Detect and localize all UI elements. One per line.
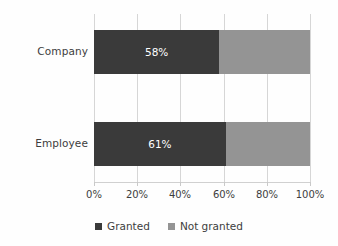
plot-area: 58% 61% — [94, 14, 310, 182]
bar-segment-employee-not-granted[interactable] — [226, 122, 310, 166]
x-tick-mark-0 — [94, 182, 95, 186]
x-tick-mark-40 — [180, 182, 181, 186]
x-tick-label-100: 100% — [290, 189, 330, 200]
legend-label-not-granted: Not granted — [180, 220, 243, 232]
bar-segment-company-granted[interactable] — [94, 30, 219, 74]
bar-row-company: 58% — [94, 30, 310, 74]
x-tick-label-0: 0% — [74, 189, 114, 200]
x-tick-label-20: 20% — [117, 189, 157, 200]
x-tick-label-60: 60% — [204, 189, 244, 200]
category-label-employee: Employee — [0, 137, 88, 149]
stacked-bar-chart: Company Employee 58% 61% 0% 20% 40% 60% … — [0, 0, 338, 246]
bar-segment-company-not-granted[interactable] — [219, 30, 310, 74]
chart-legend: Granted Not granted — [0, 220, 338, 232]
category-label-company: Company — [0, 45, 88, 57]
x-tick-mark-60 — [224, 182, 225, 186]
x-tick-mark-20 — [137, 182, 138, 186]
legend-item-not-granted[interactable]: Not granted — [168, 220, 243, 232]
bar-segment-employee-granted[interactable] — [94, 122, 226, 166]
legend-swatch-not-granted — [168, 223, 175, 230]
legend-label-granted: Granted — [107, 220, 150, 232]
legend-item-granted[interactable]: Granted — [95, 220, 150, 232]
x-tick-mark-100 — [310, 182, 311, 186]
x-axis-line — [94, 182, 311, 183]
legend-swatch-granted — [95, 223, 102, 230]
x-tick-label-80: 80% — [247, 189, 287, 200]
x-tick-mark-80 — [267, 182, 268, 186]
bar-row-employee: 61% — [94, 122, 310, 166]
gridline-100 — [310, 14, 311, 182]
x-tick-label-40: 40% — [160, 189, 200, 200]
